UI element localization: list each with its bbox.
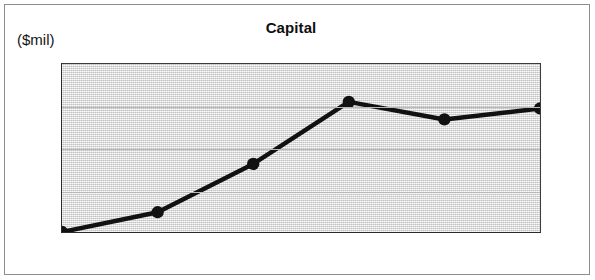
x-axis-tick	[158, 232, 159, 233]
line-series-capital: 2004: 5002005: 5472006: 6622007: 8102008…	[62, 64, 540, 232]
plot-area: 2004: 5002005: 5472006: 6622007: 8102008…	[61, 63, 541, 233]
data-point-marker: 2008: 768	[438, 113, 450, 125]
series-line-capital	[62, 102, 540, 232]
x-axis-tick	[254, 232, 255, 233]
y-axis-tick-major	[61, 192, 62, 193]
gridline-horizontal	[62, 149, 540, 150]
y-axis-tick-minor	[61, 128, 62, 129]
data-point-marker: 2006: 662	[247, 158, 259, 170]
y-axis-unit-label: ($mil)	[17, 31, 55, 48]
chart-title-text: Capital	[266, 19, 317, 36]
chart-frame: Capital ($mil) 2004: 5002005: 5472006: 6…	[4, 4, 590, 275]
y-axis-tick-major	[61, 64, 62, 65]
data-point-marker: 2004: 500	[61, 226, 68, 233]
y-axis-tick-minor	[61, 170, 62, 171]
x-axis-tick	[350, 232, 351, 233]
y-axis-tick-major	[61, 107, 62, 108]
y-axis-tick-major	[61, 149, 62, 150]
y-axis-tick-minor	[61, 85, 62, 86]
data-point-marker: 3-09: 794	[534, 102, 541, 114]
y-axis-tick-minor	[61, 213, 62, 214]
gridline-horizontal	[62, 192, 540, 193]
data-point-marker: 2005: 547	[151, 206, 163, 218]
gridline-horizontal	[62, 107, 540, 108]
x-axis-tick	[446, 232, 447, 233]
chart-title: Capital	[5, 19, 589, 36]
